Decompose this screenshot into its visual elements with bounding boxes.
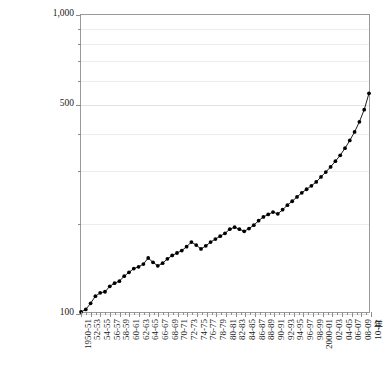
x-tick-major — [245, 312, 246, 317]
x-tick-minor — [328, 312, 329, 315]
data-point — [94, 294, 98, 298]
x-tick-major — [226, 312, 227, 317]
data-point — [286, 203, 290, 207]
data-point — [324, 170, 328, 174]
x-tick-major — [149, 312, 150, 317]
x-axis-label: 78-79 — [219, 319, 228, 340]
x-tick-major — [100, 312, 101, 317]
x-tick-major — [371, 312, 372, 317]
data-point — [151, 260, 155, 264]
x-tick-major — [81, 312, 82, 317]
x-axis-label: 66-67 — [161, 319, 170, 340]
x-tick-major — [197, 312, 198, 317]
x-tick-minor — [202, 312, 203, 315]
data-point — [122, 274, 126, 278]
x-axis-label: 64-65 — [151, 319, 160, 340]
x-axis-label: 52-53 — [93, 319, 102, 340]
data-point — [98, 291, 102, 295]
data-point — [113, 281, 117, 285]
x-axis-label: 08-09 — [364, 319, 373, 340]
data-point — [262, 215, 266, 219]
data-point — [348, 139, 352, 143]
data-point — [166, 257, 170, 261]
series-markers — [79, 91, 371, 313]
x-tick-minor — [231, 312, 232, 315]
x-axis-unit-label: 年 — [374, 321, 383, 330]
plot-area — [80, 14, 370, 313]
x-axis-label: 2000-01 — [325, 319, 334, 349]
x-tick-minor — [279, 312, 280, 315]
x-tick-major — [265, 312, 266, 317]
x-axis-label: 58-59 — [122, 319, 131, 340]
x-tick-minor — [308, 312, 309, 315]
data-point — [343, 146, 347, 150]
x-tick-minor — [96, 312, 97, 315]
x-axis-label: 76-77 — [209, 319, 218, 340]
data-point — [84, 308, 88, 312]
x-tick-minor — [86, 312, 87, 315]
data-point — [305, 187, 309, 191]
x-tick-minor — [250, 312, 251, 315]
x-tick-minor — [115, 312, 116, 315]
data-point — [247, 227, 251, 231]
x-tick-minor — [134, 312, 135, 315]
x-tick-major — [332, 312, 333, 317]
data-point — [319, 175, 323, 179]
x-tick-minor — [154, 312, 155, 315]
x-tick-major — [255, 312, 256, 317]
x-tick-major — [284, 312, 285, 317]
data-point — [132, 267, 136, 271]
data-point — [175, 251, 179, 255]
x-tick-major — [342, 312, 343, 317]
x-tick-minor — [192, 312, 193, 315]
x-tick-minor — [337, 312, 338, 315]
x-axis-label: 70-71 — [180, 319, 189, 340]
x-tick-major — [158, 312, 159, 317]
data-point — [223, 231, 227, 235]
data-point — [185, 245, 189, 249]
data-point — [290, 199, 294, 203]
y-axis-label: 500 — [28, 99, 74, 109]
x-tick-major — [236, 312, 237, 317]
data-point — [353, 130, 357, 134]
data-point — [334, 159, 338, 163]
data-point — [170, 254, 174, 258]
x-tick-minor — [270, 312, 271, 315]
data-point — [362, 108, 366, 112]
x-tick-minor — [299, 312, 300, 315]
data-point — [252, 223, 256, 227]
data-point — [276, 212, 280, 216]
data-point — [329, 165, 333, 169]
data-point — [310, 184, 314, 188]
data-point — [142, 262, 146, 266]
log-line-chart: 1005001,000 1950-5152-5354-5556-5758-596… — [0, 0, 383, 366]
x-tick-minor — [366, 312, 367, 315]
x-tick-major — [323, 312, 324, 317]
x-tick-major — [187, 312, 188, 317]
x-tick-minor — [318, 312, 319, 315]
data-point — [194, 243, 198, 247]
data-point — [266, 213, 270, 217]
x-tick-major — [303, 312, 304, 317]
x-axis-label: 84-85 — [248, 319, 257, 340]
data-point — [89, 301, 93, 305]
x-tick-major — [91, 312, 92, 317]
x-tick-major — [274, 312, 275, 317]
x-axis-label: 94-95 — [296, 319, 305, 340]
data-point — [358, 120, 362, 124]
data-point — [281, 208, 285, 212]
x-tick-minor — [144, 312, 145, 315]
data-point — [209, 240, 213, 244]
x-tick-minor — [173, 312, 174, 315]
data-point — [161, 261, 165, 265]
data-point — [257, 219, 261, 223]
x-tick-minor — [105, 312, 106, 315]
x-tick-major — [110, 312, 111, 317]
data-point — [156, 264, 160, 268]
data-point — [103, 290, 107, 294]
x-tick-major — [129, 312, 130, 317]
x-tick-major — [361, 312, 362, 317]
data-point — [137, 265, 141, 269]
series-line — [81, 93, 369, 312]
x-tick-minor — [347, 312, 348, 315]
